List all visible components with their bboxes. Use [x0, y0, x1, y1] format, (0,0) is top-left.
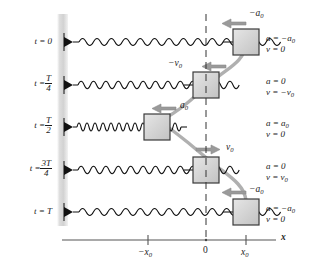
vel-text-4: v = v: [266, 172, 285, 182]
velocity-value-2: v = −v0: [266, 87, 294, 98]
tick-main-neg-x0: −x: [138, 247, 149, 257]
time-fraction-4: 3T4: [40, 159, 52, 179]
acceleration-value-2: a = 0: [266, 76, 294, 87]
time-fraction-2: T4: [45, 74, 52, 94]
tick-sub-x0: 0: [245, 251, 248, 258]
vel-text-3: v = 0: [266, 129, 285, 139]
time-value-1: 0: [48, 36, 53, 46]
accel-text-5: a = −a: [266, 203, 292, 213]
time-fraction-3: T2: [45, 116, 52, 136]
accel-text-4: a = 0: [266, 161, 286, 171]
state-annotation-row-2: a = 0 v = −v0: [266, 76, 294, 98]
time-denominator-3: 2: [45, 126, 52, 136]
mass-block-1: [233, 29, 259, 55]
time-label-row-1: t = 0: [8, 37, 52, 46]
vel-sub-4: 0: [285, 176, 288, 183]
acceleration-arrow-3: [152, 104, 176, 113]
acceleration-value-3: a = a0: [266, 118, 289, 129]
vel-text-5: v = 0: [266, 214, 285, 224]
axis-tick-label-neg-x0: −x0: [138, 247, 152, 257]
accel-text-2: a = 0: [266, 76, 286, 86]
arrow-label-sub-2: 0: [179, 62, 182, 69]
accel-sub-5: 0: [292, 207, 295, 214]
time-lead-5: t =: [34, 206, 45, 216]
time-lead-2: t =: [34, 78, 45, 88]
time-label-row-3: t =T2: [8, 116, 52, 136]
velocity-value-4: v = v0: [266, 172, 288, 183]
axis-tick-label-zero: 0: [203, 245, 208, 255]
mass-block-5: [233, 199, 259, 225]
velocity-value-5: v = 0: [266, 214, 295, 225]
arrow-label-2: −v0: [168, 58, 182, 68]
acceleration-value-5: a = −a0: [266, 203, 295, 214]
time-denominator-4: 4: [40, 169, 52, 179]
time-lead-1: t =: [34, 36, 45, 46]
arrow-label-sub-1: 0: [260, 12, 263, 19]
state-annotation-row-1: a = −a0 v = 0: [266, 33, 295, 55]
vel-sub-2: 0: [291, 91, 294, 98]
wall-support: [57, 14, 68, 226]
time-lead-3: t =: [34, 120, 45, 130]
accel-text-1: a = −a: [266, 33, 292, 43]
state-annotation-row-3: a = a0 v = 0: [266, 118, 289, 140]
x-axis: [62, 235, 276, 245]
vel-text-1: v = 0: [266, 44, 285, 54]
axis-tick-label-x0: x0: [241, 247, 249, 257]
state-annotation-row-5: a = −a0 v = 0: [266, 203, 295, 225]
arrow-label-3: a0: [180, 100, 188, 110]
mass-block-3: [144, 114, 170, 140]
time-label-row-2: t =T4: [8, 74, 52, 94]
shm-spring-figure: t = 0 t =T4 t =T2 t =3T4 t = T −a0 −v0 a…: [0, 0, 313, 268]
arrow-label-sub-5: 0: [260, 188, 263, 195]
time-lead-4: t =: [30, 163, 41, 173]
axis-name-label: x: [281, 232, 286, 242]
time-label-row-5: t = T: [8, 207, 52, 216]
acceleration-value-4: a = 0: [266, 161, 288, 172]
velocity-value-3: v = 0: [266, 129, 289, 140]
vel-text-2: v = −v: [266, 87, 291, 97]
arrow-label-sub-3: 0: [185, 104, 188, 111]
time-label-row-4: t =3T4: [4, 159, 52, 179]
arrow-label-1: −a0: [249, 8, 263, 18]
velocity-value-1: v = 0: [266, 44, 295, 55]
time-value-5: T: [47, 206, 52, 216]
arrow-label-5: −a0: [249, 184, 263, 194]
arrow-label-main-5: −a: [249, 184, 260, 194]
arrow-label-main-1: −a: [249, 8, 260, 18]
acceleration-arrow-1: [222, 19, 246, 28]
arrow-label-sub-4: 0: [230, 146, 233, 153]
arrow-label-main-2: −v: [168, 58, 179, 68]
accel-sub-1: 0: [292, 37, 295, 44]
tick-sub-neg-x0: 0: [149, 251, 152, 258]
arrow-label-4: v0: [226, 142, 234, 152]
state-annotation-row-4: a = 0 v = v0: [266, 161, 288, 183]
time-denominator-2: 4: [45, 84, 52, 94]
accel-text-3: a = a: [266, 118, 286, 128]
acceleration-value-1: a = −a0: [266, 33, 295, 44]
accel-sub-3: 0: [286, 122, 289, 129]
